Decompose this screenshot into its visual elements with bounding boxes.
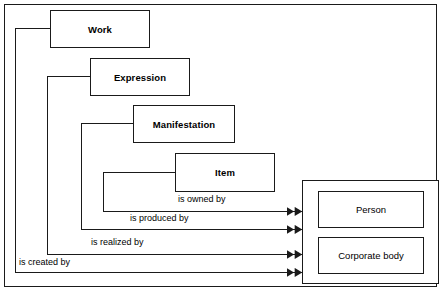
entity-box-work[interactable]: Work [50,10,150,48]
entity-box-manifestation[interactable]: Manifestation [133,105,235,143]
entity-label-manifestation: Manifestation [153,119,216,130]
entity-label-item: Item [215,167,235,178]
relationship-label-is-created-by: is created by [17,257,72,268]
entity-box-item[interactable]: Item [175,153,275,192]
entity-box-corporate-body[interactable]: Corporate body [318,237,424,274]
relationship-label-is-realized-by: is realized by [89,237,146,248]
entity-label-corporate-body: Corporate body [338,250,403,261]
entity-label-work: Work [88,24,112,35]
frbr-diagram: Work Expression Manifestation Item Perso… [0,0,443,296]
relationship-label-is-owned-by: is owned by [176,194,228,205]
relationship-label-is-produced-by: is produced by [128,213,191,224]
entity-label-person: Person [356,204,386,215]
agent-group-container: Person Corporate body [302,180,439,284]
entity-label-expression: Expression [114,72,166,83]
entity-box-person[interactable]: Person [318,191,424,228]
entity-box-expression[interactable]: Expression [90,58,190,96]
